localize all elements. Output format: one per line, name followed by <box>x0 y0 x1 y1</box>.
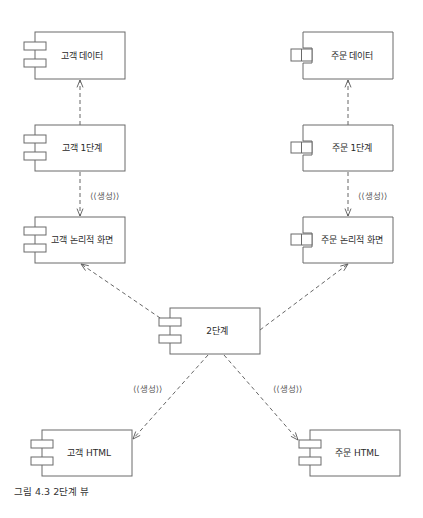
component-label: 고객 HTML <box>67 448 111 458</box>
figure-caption: 그림 4.3 2단계 뷰 <box>14 484 89 498</box>
component-tab-icon <box>31 457 53 465</box>
component-label: 2단계 <box>206 325 228 336</box>
component-customer-data[interactable]: 고객 데이터 <box>24 32 125 79</box>
component-tab-icon <box>24 152 46 160</box>
component-diagram: 고객 데이터고객 1단계고객 논리적 화면주문 데이터주문 1단계주문 논리적 … <box>0 0 423 518</box>
dependency-stage2-to-order-logical-screen <box>260 264 348 330</box>
stereotype-label: ⟨⟨생성⟩⟩ <box>273 384 302 394</box>
component-label: 고객 데이터 <box>61 51 104 61</box>
component-tab-icon <box>159 318 181 326</box>
dependency-line <box>133 355 208 439</box>
component-tab-icon <box>24 42 46 50</box>
open-arrowhead-icon <box>81 264 89 271</box>
dependency-customer-stage1-to-customer-data <box>77 80 83 125</box>
component-label: 주문 1단계 <box>332 142 373 153</box>
component-layer: 고객 데이터고객 1단계고객 논리적 화면주문 데이터주문 1단계주문 논리적 … <box>24 32 400 476</box>
stereotype-label: ⟨⟨생성⟩⟩ <box>358 191 387 201</box>
dependency-stage2-to-order-html <box>224 355 298 440</box>
component-tab-icon <box>299 457 321 465</box>
stereotype-label: ⟨⟨생성⟩⟩ <box>90 191 119 201</box>
dependency-stage2-to-customer-logical-screen <box>81 264 166 322</box>
component-label: 주문 데이터 <box>331 51 374 61</box>
component-order-stage1[interactable]: 주문 1단계 <box>291 125 393 171</box>
component-tab-icon <box>24 244 46 252</box>
open-arrowhead-icon <box>340 264 348 271</box>
component-order-logical-screen[interactable]: 주문 논리적 화면 <box>291 217 393 263</box>
component-label: 주문 논리적 화면 <box>321 234 383 245</box>
component-tab-icon <box>31 440 53 448</box>
component-tab-icon <box>299 440 321 448</box>
dependency-order-stage1-to-order-data <box>345 80 351 125</box>
component-label: 고객 1단계 <box>62 142 103 153</box>
component-stage2[interactable]: 2단계 <box>159 308 260 354</box>
component-customer-stage1[interactable]: 고객 1단계 <box>24 125 125 171</box>
dependency-line <box>224 355 298 440</box>
component-label: 고객 논리적 화면 <box>51 234 113 245</box>
dependency-order-stage1-to-order-logical-screen <box>345 172 351 216</box>
component-order-data[interactable]: 주문 데이터 <box>291 32 393 79</box>
component-label: 주문 HTML <box>335 448 379 458</box>
component-order-html[interactable]: 주문 HTML <box>299 430 400 476</box>
dependency-line <box>260 264 348 330</box>
stereotype-label: ⟨⟨생성⟩⟩ <box>133 384 162 394</box>
dependency-customer-stage1-to-customer-logical-screen <box>77 172 83 216</box>
component-customer-html[interactable]: 고객 HTML <box>31 430 132 476</box>
dependency-line <box>81 264 166 322</box>
component-customer-logical-screen[interactable]: 고객 논리적 화면 <box>24 217 125 263</box>
dependency-stage2-to-customer-html <box>133 355 208 439</box>
component-tab-icon <box>24 135 46 143</box>
component-tab-icon <box>24 59 46 67</box>
component-tab-icon <box>159 335 181 343</box>
component-tab-icon <box>24 227 46 235</box>
